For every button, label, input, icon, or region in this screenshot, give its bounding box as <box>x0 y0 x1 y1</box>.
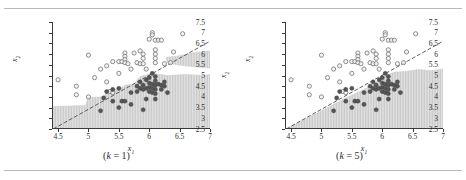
data-point-class-1-open <box>153 56 157 60</box>
data-point-class-2-filled <box>350 86 354 90</box>
data-point-class-1-open <box>359 62 363 66</box>
y-tick-label: 3.5 <box>196 104 205 111</box>
y-tick-label: 7.5 <box>429 19 438 26</box>
y-tick-label: 7 <box>434 29 438 36</box>
plot-area-k5: 2.533.544.555.566.577.5 4.555.566.57 x1 <box>285 22 443 129</box>
y-tick-mark <box>49 118 52 119</box>
data-point-class-2-filled <box>380 76 384 80</box>
data-point-class-1-open <box>99 67 103 71</box>
y-tick-label: 4 <box>434 93 438 100</box>
data-point-class-1-open <box>332 67 336 71</box>
x-tick-label: 7 <box>198 133 222 140</box>
y-tick-mark <box>282 108 285 109</box>
plot-clip-k5 <box>285 22 443 129</box>
data-point-class-1-open <box>159 38 163 42</box>
y-tick-mark <box>49 22 52 23</box>
figure-top-rule <box>4 8 462 9</box>
data-point-class-1-open <box>344 59 348 63</box>
figure-bottom-rule <box>4 170 462 171</box>
y-axis-line-k1 <box>52 22 53 129</box>
data-point-class-2-filled <box>111 87 115 91</box>
data-point-class-1-open <box>395 62 399 66</box>
x-tick-label: 5.5 <box>107 133 131 140</box>
data-point-class-2-filled <box>117 86 121 90</box>
data-point-class-1-open <box>377 67 381 71</box>
y-tick-mark <box>282 65 285 66</box>
data-point-class-2-filled <box>395 80 399 84</box>
data-point-class-2-filled <box>159 87 163 91</box>
data-point-class-2-filled <box>392 87 396 91</box>
data-point-class-1-open <box>153 48 157 52</box>
data-point-class-2-filled <box>153 87 157 91</box>
data-point-class-2-filled <box>386 97 390 101</box>
data-point-class-2-filled <box>332 109 336 113</box>
y-tick-label: 3.5 <box>429 104 438 111</box>
x-axis-line-k5 <box>285 128 443 129</box>
y-tick-label: 2.5 <box>196 126 205 133</box>
data-point-class-2-filled <box>386 87 390 91</box>
data-point-class-1-open <box>414 32 418 36</box>
data-point-class-2-filled <box>344 99 348 103</box>
data-point-class-1-open <box>111 59 115 63</box>
y-tick-mark <box>49 43 52 44</box>
y-tick-mark <box>282 97 285 98</box>
y-tick-label: 5 <box>434 72 438 79</box>
data-point-class-1-open <box>386 52 390 56</box>
plot-canvas-k5 <box>285 22 443 129</box>
plot-area-k1: 2.533.544.555.566.577.5 4.555.566.57 x1 <box>52 22 210 129</box>
data-point-class-2-filled <box>153 79 157 83</box>
data-point-class-1-open <box>380 37 384 41</box>
plot-canvas-k1 <box>52 22 210 129</box>
data-point-class-2-filled <box>386 74 390 78</box>
data-point-class-1-open <box>171 50 175 54</box>
data-point-class-1-open <box>181 32 185 36</box>
data-point-class-1-open <box>141 62 145 66</box>
data-point-class-2-filled <box>111 99 115 103</box>
data-point-class-2-filled <box>141 83 145 87</box>
data-point-class-2-filled <box>338 89 342 93</box>
data-point-class-1-open <box>74 93 78 97</box>
data-point-class-2-filled <box>153 92 157 96</box>
data-point-class-1-open <box>168 61 172 65</box>
data-point-class-2-filled <box>386 79 390 83</box>
data-point-class-1-open <box>319 53 323 57</box>
data-point-class-1-open <box>162 62 166 66</box>
y-tick-mark <box>282 22 285 23</box>
y-tick-label: 5 <box>201 72 205 79</box>
y-tick-label: 5.5 <box>196 61 205 68</box>
data-point-class-2-filled <box>395 84 399 88</box>
data-point-class-2-filled <box>129 91 133 95</box>
y-tick-mark <box>49 86 52 87</box>
y-tick-label: 5.5 <box>429 61 438 68</box>
data-point-class-1-open <box>338 80 342 84</box>
data-point-class-1-open <box>350 71 354 75</box>
data-point-class-2-filled <box>102 96 106 100</box>
caption-eq-k5: = <box>344 150 355 161</box>
data-point-class-1-open <box>153 61 157 65</box>
data-point-class-2-filled <box>129 102 133 106</box>
data-point-class-2-filled <box>362 91 366 95</box>
data-point-class-2-filled <box>117 106 121 110</box>
data-point-class-1-open <box>86 95 90 99</box>
y-tick-label: 4 <box>201 93 205 100</box>
data-point-class-2-filled <box>135 89 139 93</box>
y-tick-mark <box>282 54 285 55</box>
data-point-class-2-filled <box>374 83 378 87</box>
data-point-class-1-open <box>401 61 405 65</box>
x-tick-label: 5 <box>76 133 100 140</box>
data-point-class-2-filled <box>138 80 142 84</box>
data-point-class-2-filled <box>105 89 109 93</box>
data-point-class-1-open <box>365 51 369 55</box>
data-point-class-1-open <box>132 51 136 55</box>
secondary-y-axis-title-k1: x2 <box>219 72 230 78</box>
y-tick-label: 6.5 <box>429 40 438 47</box>
data-point-class-2-filled <box>377 97 381 101</box>
data-point-class-2-filled <box>153 74 157 78</box>
y-tick-label: 6 <box>201 51 205 58</box>
y-tick-mark <box>49 108 52 109</box>
y-tick-mark <box>282 43 285 44</box>
x-tick-label: 7 <box>431 133 455 140</box>
y-tick-mark <box>282 129 285 130</box>
y-tick-label: 7 <box>201 29 205 36</box>
data-point-class-2-filled <box>386 92 390 96</box>
